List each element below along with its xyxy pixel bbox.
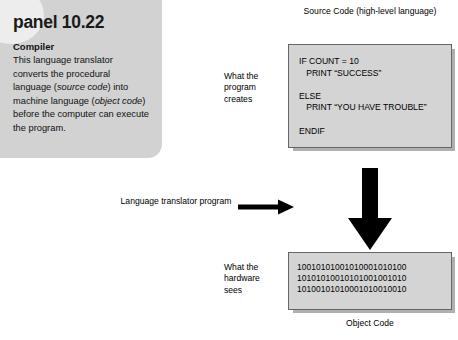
source-code-caption: Source Code (high-level language): [287, 6, 453, 17]
translator-label: Language translator program: [120, 196, 232, 207]
source-code-box: IF COUNT = 10 PRINT “SUCCESS” ELSE PRINT…: [288, 44, 452, 148]
source-code-text: IF COUNT = 10 PRINT “SUCCESS” ELSE PRINT…: [299, 56, 427, 137]
arrow-right-icon: [238, 199, 294, 215]
object-code-text: 10010101001010001010100 1010101001010100…: [297, 262, 406, 296]
arrow-down-icon: [348, 168, 392, 250]
object-code-caption: Object Code: [287, 318, 453, 329]
label-program-creates: What the program creates: [224, 71, 284, 105]
panel-card: panel 10.22 Compiler This language trans…: [0, 0, 162, 158]
panel-body-text: This language translator converts the pr…: [13, 54, 149, 136]
label-hardware-sees: What the hardware sees: [224, 262, 284, 296]
panel-subtitle: Compiler: [13, 41, 54, 52]
object-code-box: 10010101001010001010100 1010101001010100…: [288, 252, 452, 310]
panel-title: panel 10.22: [13, 12, 104, 33]
